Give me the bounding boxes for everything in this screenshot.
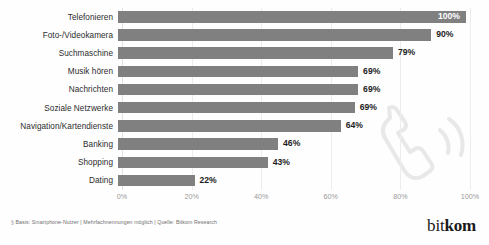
category-label: Banking bbox=[0, 140, 118, 149]
footnote-text: Basis: Smartphone-Nutzer | Mehrfachnennu… bbox=[16, 219, 217, 225]
category-label: Shopping bbox=[0, 158, 118, 167]
bar bbox=[118, 66, 358, 78]
bar-track: 69% bbox=[118, 63, 489, 81]
bar-value-label: 22% bbox=[200, 175, 217, 187]
bar bbox=[118, 47, 393, 59]
chart-title-cropped bbox=[0, 0, 489, 7]
bar bbox=[118, 138, 278, 150]
bar-row: Soziale Netzwerke69% bbox=[0, 99, 489, 117]
bitkom-logo: bitkom bbox=[427, 216, 476, 236]
footnote-marker: § bbox=[11, 219, 14, 225]
bar-track: 43% bbox=[118, 154, 489, 172]
bar-track: 46% bbox=[118, 135, 489, 153]
bar-row: Shopping43% bbox=[0, 154, 489, 172]
bitkom-bar-chart-figure: Telefonieren100%Foto-/Videokamera90%Such… bbox=[0, 0, 489, 245]
bar-value-label: 90% bbox=[436, 29, 453, 41]
logo-part-bit: bit bbox=[427, 216, 444, 235]
bar-value-label: 43% bbox=[273, 157, 290, 169]
bar-value-label: 69% bbox=[360, 102, 377, 114]
source-note: § Basis: Smartphone-Nutzer | Mehrfachnen… bbox=[11, 219, 217, 225]
bar bbox=[118, 157, 268, 169]
bar-track: 90% bbox=[118, 26, 489, 44]
bar-row: Dating22% bbox=[0, 172, 489, 190]
plot-area: Telefonieren100%Foto-/Videokamera90%Such… bbox=[0, 8, 489, 190]
bar bbox=[118, 11, 466, 23]
x-tick-label: 100% bbox=[461, 192, 479, 201]
bar-value-label: 100% bbox=[438, 11, 460, 23]
bar-row: Foto-/Videokamera90% bbox=[0, 26, 489, 44]
category-label: Foto-/Videokamera bbox=[0, 31, 118, 40]
bar-row: Telefonieren100% bbox=[0, 8, 489, 26]
category-label: Suchmaschine bbox=[0, 49, 118, 58]
bar bbox=[118, 29, 431, 41]
category-label: Telefonieren bbox=[0, 13, 118, 22]
x-tick-label: 0% bbox=[117, 192, 127, 201]
category-label: Navigation/Kartendienste bbox=[0, 122, 118, 131]
category-label: Nachrichten bbox=[0, 85, 118, 94]
bar-track: 64% bbox=[118, 117, 489, 135]
bar-row: Nachrichten69% bbox=[0, 81, 489, 99]
bar-track: 69% bbox=[118, 81, 489, 99]
bar bbox=[118, 84, 358, 96]
bar-track: 100% bbox=[118, 8, 489, 26]
category-label: Musik hören bbox=[0, 67, 118, 76]
logo-part-kom: kom bbox=[444, 216, 476, 235]
bar bbox=[118, 120, 341, 132]
category-label: Soziale Netzwerke bbox=[0, 104, 118, 113]
bar-row: Musik hören69% bbox=[0, 63, 489, 81]
bar-value-label: 64% bbox=[346, 120, 363, 132]
x-tick-label: 80% bbox=[393, 192, 407, 201]
bar bbox=[118, 102, 355, 114]
category-label: Dating bbox=[0, 176, 118, 185]
x-tick-label: 60% bbox=[324, 192, 338, 201]
bar-row: Banking46% bbox=[0, 135, 489, 153]
bar-value-label: 46% bbox=[283, 138, 300, 150]
bar-track: 79% bbox=[118, 44, 489, 62]
bar bbox=[118, 175, 195, 187]
bar-track: 69% bbox=[118, 99, 489, 117]
x-axis: 0%20%40%60%80%100% bbox=[0, 192, 489, 206]
bar-row: Navigation/Kartendienste64% bbox=[0, 117, 489, 135]
bar-track: 22% bbox=[118, 172, 489, 190]
bar-value-label: 79% bbox=[398, 47, 415, 59]
x-tick-label: 20% bbox=[184, 192, 198, 201]
x-tick-label: 40% bbox=[254, 192, 268, 201]
bar-row: Suchmaschine79% bbox=[0, 44, 489, 62]
bar-rows: Telefonieren100%Foto-/Videokamera90%Such… bbox=[0, 8, 489, 190]
bar-value-label: 69% bbox=[363, 84, 380, 96]
bar-value-label: 69% bbox=[363, 66, 380, 78]
